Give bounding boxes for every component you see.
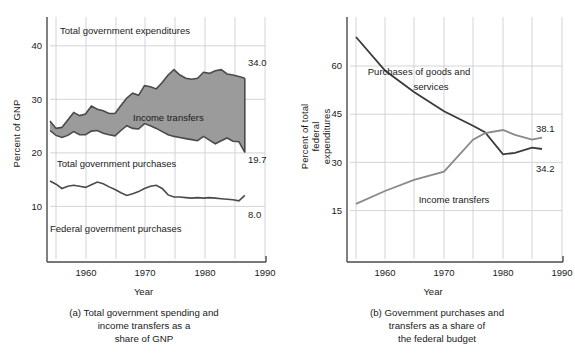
annotation-purchases-line-1: Purchases of goods and (368, 66, 470, 77)
plot-background (350, 17, 562, 259)
panel-b-caption-line-2: transfers as a share of (302, 319, 572, 332)
y-tick-20: 20 (31, 147, 42, 158)
panel-b-caption: (b) Government purchases and transfers a… (302, 306, 572, 345)
panel-a: 10 20 30 40 1960 1970 1980 1990 Total go… (0, 0, 287, 364)
annotation-federal-purchases: Federal government purchases (50, 223, 182, 234)
endvalue-federal: 8.0 (248, 209, 261, 220)
y-tick-10: 10 (31, 201, 42, 212)
panel-a-y-axis-title: Percent of GNP (11, 94, 22, 174)
panel-b: 15 30 45 60 1960 1970 1980 1990 Purchase… (288, 0, 575, 364)
panel-a-svg: 10 20 30 40 1960 1970 1980 1990 Total go… (0, 0, 287, 290)
x-tick-1970: 1970 (433, 267, 454, 278)
endvalue-purchases: 34.2 (536, 163, 555, 174)
figure-two-panel-chart: 10 20 30 40 1960 1970 1980 1990 Total go… (0, 0, 575, 364)
panel-b-x-axis-title: Year (298, 286, 568, 297)
endvalue-transfers: 38.1 (536, 123, 555, 134)
x-tick-1960: 1960 (374, 267, 395, 278)
annotation-total-purchases: Total government purchases (57, 158, 177, 169)
panel-a-plot: 10 20 30 40 1960 1970 1980 1990 Total go… (0, 0, 287, 290)
y-tick-labels: 15 30 45 60 (331, 60, 342, 216)
annotation-income-transfers: Income transfers (419, 194, 490, 205)
panel-b-caption-line-1: (b) Government purchases and (302, 306, 572, 319)
panel-b-plot: 15 30 45 60 1960 1970 1980 1990 Purchase… (288, 0, 575, 290)
y-tick-15: 15 (331, 205, 342, 216)
y-tick-labels: 10 20 30 40 (31, 40, 42, 212)
panel-a-caption-line-2: income transfers as a (9, 319, 279, 332)
y-tick-60: 60 (331, 60, 342, 71)
endvalue-purchases: 19.7 (248, 154, 267, 165)
panel-b-y-axis-title-line-1: Percent of total (299, 104, 310, 170)
y-tick-30: 30 (331, 157, 342, 168)
endvalue-expenditures: 34.0 (248, 57, 267, 68)
y-tick-40: 40 (31, 40, 42, 51)
panel-b-y-axis-title-line-2: federal expenditures (310, 109, 332, 165)
x-tick-1980: 1980 (492, 267, 513, 278)
panel-a-caption-line-3: share of GNP (9, 332, 279, 345)
y-tick-45: 45 (331, 108, 342, 119)
x-tick-1960: 1960 (75, 267, 96, 278)
x-tick-1980: 1980 (194, 267, 215, 278)
annotation-total-expenditures: Total government expenditures (60, 25, 190, 36)
x-tick-labels: 1960 1970 1980 1990 (75, 267, 275, 278)
panel-b-caption-line-3: the federal budget (302, 332, 572, 345)
panel-a-x-axis-title: Year (0, 286, 287, 297)
x-tick-1990: 1990 (551, 267, 572, 278)
panel-b-y-axis-title: Percent of total federal expenditures (299, 94, 332, 180)
panel-a-caption-line-1: (a) Total government spending and (9, 306, 279, 319)
y-tick-30: 30 (31, 94, 42, 105)
annotation-income-transfers: Income transfers (133, 112, 204, 123)
x-tick-labels: 1960 1970 1980 1990 (374, 267, 572, 278)
x-tick-1970: 1970 (134, 267, 155, 278)
x-tick-1990: 1990 (254, 267, 275, 278)
annotation-purchases-line-2: services (414, 81, 449, 92)
panel-a-caption: (a) Total government spending and income… (9, 306, 279, 345)
